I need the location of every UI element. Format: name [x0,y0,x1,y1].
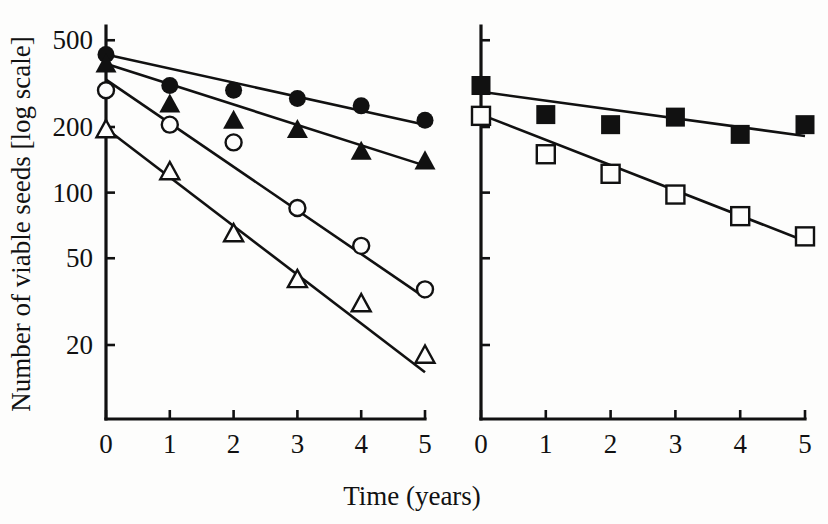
marker-open-circle [162,117,178,133]
marker-filled-triangle [159,93,180,112]
fit-line-open-square [481,115,805,241]
marker-filled-circle [353,97,370,114]
series-open-triangle [97,120,435,363]
y-tick-label: 200 [53,112,94,142]
y-tick-label: 20 [66,330,93,360]
fit-line-open-triangle [106,128,425,372]
plot-layer: 5002001005020012345012345 [53,25,815,459]
y-tick-label: 500 [53,25,94,55]
marker-filled-square [536,105,555,124]
x-tick-label: 0 [474,429,488,459]
marker-filled-square [666,108,685,127]
marker-open-square [602,165,620,183]
x-tick-label: 5 [418,429,432,459]
x-tick-label: 2 [227,429,241,459]
marker-filled-square [472,76,491,95]
marker-filled-circle [225,82,242,99]
x-tick-label: 5 [798,429,812,459]
marker-filled-square [796,115,815,134]
left-panel: 5002001005020012345 [53,25,436,459]
marker-open-triangle [416,345,435,362]
y-axis-title: Number of viable seeds [log scale] [6,36,36,412]
figure-root: Number of viable seeds [log scale] Time … [0,0,828,524]
marker-open-circle [417,281,433,297]
series-filled-square [472,76,815,144]
x-tick-label: 2 [604,429,618,459]
marker-filled-square [601,115,620,134]
marker-open-square [472,107,490,125]
x-tick-label: 3 [291,429,305,459]
x-tick-label: 1 [539,429,553,459]
x-axis-title: Time (years) [343,481,481,511]
x-tick-label: 0 [99,429,113,459]
x-tick-label: 1 [163,429,177,459]
marker-filled-circle [289,90,306,107]
marker-open-triangle [97,120,116,137]
x-tick-label: 4 [354,429,368,459]
y-tick-label: 100 [53,178,94,208]
y-tick-label: 50 [66,243,93,273]
x-tick-label: 4 [733,429,747,459]
fit-line-open-circle [106,80,425,298]
marker-open-square [796,227,814,245]
marker-filled-triangle [415,150,436,169]
marker-filled-circle [161,77,178,94]
marker-open-circle [289,200,305,216]
marker-filled-circle [417,112,434,129]
marker-open-square [537,145,555,163]
marker-open-circle [98,82,114,98]
seed-viability-chart: Number of viable seeds [log scale] Time … [0,0,828,524]
x-tick-label: 3 [669,429,683,459]
marker-filled-square [731,125,750,144]
marker-filled-triangle [223,110,244,129]
marker-open-circle [226,134,242,150]
marker-open-triangle [352,294,371,311]
right-panel: 012345 [472,26,815,459]
marker-open-square [731,207,749,225]
fit-line-filled-square [481,92,805,136]
marker-open-circle [353,238,369,254]
marker-open-square [666,186,684,204]
